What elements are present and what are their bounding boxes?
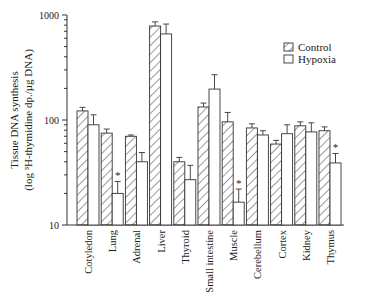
x-tick-label: Adrenal xyxy=(131,230,142,264)
bar-group-cerebellum xyxy=(246,124,268,225)
legend: Control Hypoxia xyxy=(284,41,336,65)
bar-group-adrenal xyxy=(125,135,147,225)
bar-hypoxia xyxy=(88,125,99,225)
x-tick-label: Cotyledon xyxy=(83,229,94,273)
bar-control xyxy=(77,111,88,225)
bar-group-muscle: * xyxy=(222,112,244,225)
significance-marker: * xyxy=(333,141,339,153)
bar-control xyxy=(150,26,161,225)
bar-group-kidney xyxy=(295,122,317,225)
bar-hypoxia xyxy=(185,180,196,225)
bar-control xyxy=(125,136,136,225)
legend-swatch-hypoxia xyxy=(284,55,293,63)
bar-control xyxy=(174,162,185,225)
x-tick-label: Thyroid xyxy=(180,229,191,264)
x-tick-label: Thymus xyxy=(325,230,336,264)
y-axis: 101001000 xyxy=(39,10,67,231)
bar-hypoxia xyxy=(112,193,123,225)
bar-control xyxy=(271,144,282,225)
bar-group-cortex xyxy=(271,125,293,225)
bar-group-cotyledon xyxy=(77,107,99,225)
bar-control xyxy=(101,133,112,225)
y-axis-title-line2: (log ³H-thymidine dp./µg DNA) xyxy=(22,49,35,191)
bar-hypoxia xyxy=(282,134,293,225)
x-axis-labels: CotyledonLungAdrenalLiverThyroidSmall in… xyxy=(83,229,336,292)
y-axis-title-line1: Tissue DNA synthesis xyxy=(8,71,20,168)
legend-label-control: Control xyxy=(298,41,332,53)
bar-control xyxy=(295,126,306,225)
bar-hypoxia xyxy=(330,163,341,225)
bar-group-liver xyxy=(150,22,172,225)
x-tick-label: Muscle xyxy=(228,230,239,261)
x-tick-label: Cortex xyxy=(277,229,288,258)
bar-control xyxy=(198,107,209,225)
legend-label-hypoxia: Hypoxia xyxy=(298,53,336,65)
x-tick-label: Lung xyxy=(107,229,118,252)
y-axis-title: Tissue DNA synthesis (log ³H-thymidine d… xyxy=(8,49,35,191)
bar-group-thyroid xyxy=(174,157,196,225)
bar-group-thymus: * xyxy=(319,127,341,225)
x-tick-label: Cerebellum xyxy=(252,230,263,279)
x-tick-label: Kidney xyxy=(301,229,312,261)
legend-swatch-control xyxy=(284,43,293,51)
bar-hypoxia xyxy=(161,34,172,225)
x-tick-label: Liver xyxy=(156,230,167,253)
bar-group-small-intestine xyxy=(198,75,220,225)
bar-hypoxia xyxy=(209,89,220,225)
bar-hypoxia xyxy=(257,135,268,225)
x-tick-label: Small intestine xyxy=(204,230,215,293)
bar-group-lung: * xyxy=(101,129,123,225)
bar-hypoxia xyxy=(233,202,244,225)
bar-control xyxy=(319,131,330,225)
significance-marker: * xyxy=(115,169,121,181)
bar-chart: Tissue DNA synthesis (log ³H-thymidine d… xyxy=(0,0,378,304)
bar-control xyxy=(222,122,233,225)
bar-control xyxy=(246,128,257,225)
y-tick-label: 10 xyxy=(49,220,59,231)
bar-hypoxia xyxy=(136,162,147,225)
significance-marker: * xyxy=(236,177,242,189)
y-tick-label: 100 xyxy=(44,115,59,126)
y-tick-label: 1000 xyxy=(39,10,59,21)
bar-hypoxia xyxy=(306,132,317,225)
